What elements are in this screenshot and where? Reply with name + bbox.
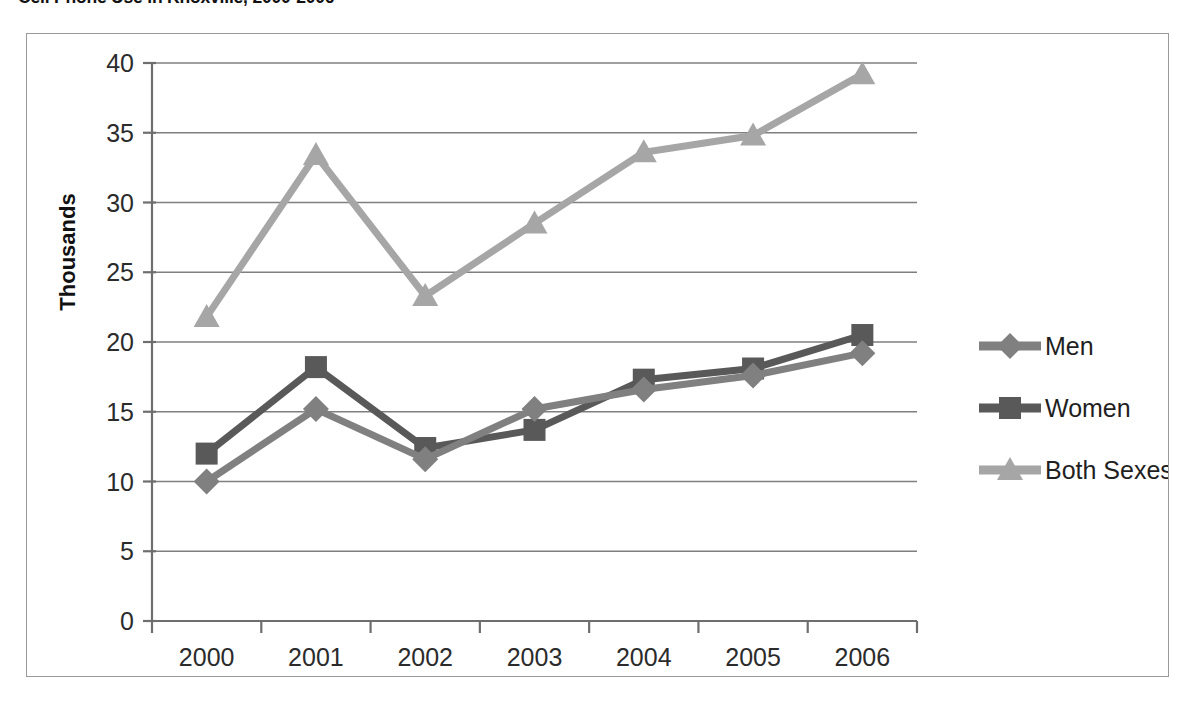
legend-swatch-marker (997, 333, 1023, 359)
y-tick-label: 20 (106, 328, 134, 356)
y-axis-title: Thousands (55, 193, 80, 310)
legend-item-label: Both Sexes (1045, 456, 1168, 484)
data-point (303, 142, 329, 165)
legend-swatch-marker (999, 397, 1021, 419)
y-tick-label: 30 (106, 189, 134, 217)
line-chart: 0510152025303540200020012002200320042005… (27, 34, 1168, 676)
x-tick-label: 2000 (179, 643, 235, 671)
series-women (196, 324, 874, 465)
y-tick-label: 40 (106, 49, 134, 77)
y-tick-label: 5 (120, 537, 134, 565)
legend-item-men[interactable]: Men (979, 332, 1094, 360)
data-point (524, 419, 546, 441)
data-point (849, 61, 875, 84)
data-point (522, 396, 548, 422)
y-tick-label: 15 (106, 398, 134, 426)
x-tick-label: 2004 (616, 643, 672, 671)
x-axis-ticks: 2000200120022003200420052006 (152, 621, 917, 671)
x-tick-label: 2005 (725, 643, 781, 671)
series-line (207, 74, 863, 317)
x-tick-label: 2002 (397, 643, 453, 671)
y-tick-label: 0 (120, 607, 134, 635)
y-tick-label: 35 (106, 119, 134, 147)
page-title: Cell Phone Use in Knoxville, 2000-2006 (18, 0, 334, 13)
y-tick-label: 25 (106, 258, 134, 286)
data-point (305, 356, 327, 378)
data-point (196, 443, 218, 465)
chart-frame: 0510152025303540200020012002200320042005… (26, 33, 1169, 677)
y-tick-label: 10 (106, 468, 134, 496)
x-tick-label: 2001 (288, 643, 344, 671)
legend-item-both-sexes[interactable]: Both Sexes (979, 456, 1168, 484)
x-tick-label: 2006 (835, 643, 891, 671)
series-both-sexes (194, 61, 876, 327)
legend-item-label: Men (1045, 332, 1094, 360)
legend-item-label: Women (1045, 394, 1131, 422)
legend-item-women[interactable]: Women (979, 394, 1131, 422)
y-gridlines: 0510152025303540 (106, 49, 917, 635)
x-tick-label: 2003 (507, 643, 563, 671)
chart-legend: MenWomenBoth Sexes (979, 332, 1168, 484)
